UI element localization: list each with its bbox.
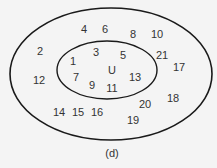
inner-set-label: U	[108, 65, 116, 76]
inner-element: 3	[93, 47, 99, 58]
outer-element: 10	[151, 29, 163, 40]
outer-element: 19	[127, 115, 139, 126]
outer-element: 16	[91, 107, 103, 118]
outer-element: 8	[130, 29, 136, 40]
inner-element: 1	[70, 56, 76, 67]
venn-diagram: U 135791113246810121415161718192021 (d)	[0, 0, 217, 168]
inner-element: 13	[129, 72, 141, 83]
outer-element: 20	[139, 99, 151, 110]
diagram-caption: (d)	[105, 148, 118, 159]
outer-element: 4	[81, 24, 87, 35]
outer-element: 14	[53, 107, 65, 118]
inner-element: 11	[106, 83, 117, 94]
outer-element: 18	[167, 93, 179, 104]
outer-element: 2	[37, 46, 43, 57]
inner-element: 7	[73, 72, 79, 83]
inner-element: 9	[89, 80, 95, 91]
inner-element: 5	[120, 50, 126, 61]
outer-element: 12	[33, 75, 45, 86]
outer-element: 15	[72, 107, 84, 118]
outer-element: 17	[173, 62, 185, 73]
outer-element: 21	[156, 50, 168, 61]
outer-element: 6	[102, 24, 108, 35]
